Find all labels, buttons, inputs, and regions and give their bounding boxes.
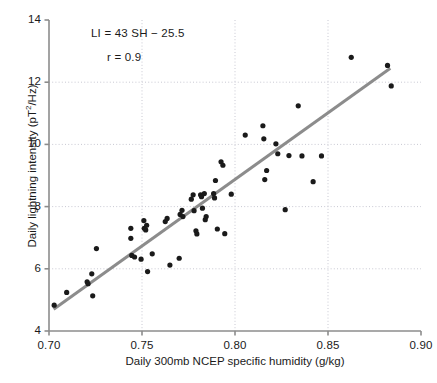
- data-point: [311, 179, 316, 184]
- data-point: [90, 293, 95, 298]
- data-point: [165, 216, 170, 221]
- data-point: [286, 153, 291, 158]
- data-point: [180, 214, 185, 219]
- data-point: [85, 281, 90, 286]
- data-point: [261, 136, 266, 141]
- data-point: [167, 262, 172, 267]
- data-point: [212, 195, 217, 200]
- data-point: [144, 223, 149, 228]
- data-point: [202, 191, 207, 196]
- x-tick-label: 0.85: [303, 339, 353, 351]
- data-point: [89, 271, 94, 276]
- data-point: [222, 231, 227, 236]
- x-tick-label: 0.80: [210, 339, 260, 351]
- y-axis-title-exponent: 2: [24, 106, 33, 110]
- data-point: [283, 207, 288, 212]
- correlation-annotation: r = 0.9: [107, 51, 141, 63]
- data-point: [264, 168, 269, 173]
- x-tick-label: 0.75: [117, 339, 167, 351]
- data-point: [262, 177, 267, 182]
- data-point: [220, 163, 225, 168]
- data-point: [177, 256, 182, 261]
- x-axis-title: Daily 300mb NCEP specific humidity (g/kg…: [49, 355, 421, 367]
- data-point: [52, 303, 57, 308]
- regression-line: [54, 68, 391, 309]
- data-point: [229, 192, 234, 197]
- data-point: [94, 246, 99, 251]
- data-point: [138, 257, 143, 262]
- data-point: [273, 141, 278, 146]
- data-point: [128, 226, 133, 231]
- data-point: [215, 226, 220, 231]
- axis-lines: [49, 20, 421, 331]
- data-point: [145, 269, 150, 274]
- data-point: [260, 123, 265, 128]
- data-point: [128, 236, 133, 241]
- y-axis-title: Daily lightning intensity (pT2/Hz): [26, 16, 38, 316]
- y-tick-label: 4: [7, 324, 41, 336]
- data-point: [243, 132, 248, 137]
- tick-marks: [45, 20, 422, 336]
- data-point: [194, 231, 199, 236]
- data-point: [64, 290, 69, 295]
- data-point: [143, 227, 148, 232]
- data-point: [275, 151, 280, 156]
- data-point: [179, 208, 184, 213]
- data-point: [213, 178, 218, 183]
- data-points: [52, 55, 394, 308]
- equation-annotation: LI = 43 SH − 25.5: [91, 27, 185, 39]
- y-axis-title-tail: /Hz): [26, 85, 38, 106]
- data-point: [191, 192, 196, 197]
- data-point: [211, 191, 216, 196]
- data-point: [385, 63, 390, 68]
- x-tick-label: 0.90: [396, 339, 437, 351]
- data-point: [299, 153, 304, 158]
- data-point: [191, 208, 196, 213]
- data-point: [204, 214, 209, 219]
- data-point: [150, 251, 155, 256]
- x-tick-label: 0.70: [24, 339, 74, 351]
- scatter-chart-figure: 468101214 0.700.750.800.850.90 Daily 300…: [0, 0, 437, 383]
- y-axis-title-main: Daily lightning intensity (pT: [26, 110, 38, 247]
- data-point: [132, 254, 137, 259]
- data-point: [349, 55, 354, 60]
- gridlines: [49, 20, 421, 331]
- data-point: [296, 103, 301, 108]
- data-point: [200, 206, 205, 211]
- plot-canvas: [0, 0, 437, 383]
- data-point: [389, 83, 394, 88]
- data-point: [319, 153, 324, 158]
- data-point: [141, 218, 146, 223]
